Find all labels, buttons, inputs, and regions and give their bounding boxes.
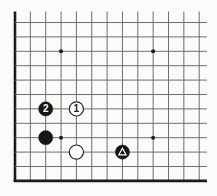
black-stone <box>39 131 53 145</box>
star-point <box>151 49 155 53</box>
stone-move-number-label: 1 <box>74 103 80 114</box>
stone-move-number-label: 2 <box>43 103 49 114</box>
star-point <box>59 49 63 53</box>
star-point <box>151 136 155 140</box>
go-board: 21 <box>0 0 217 196</box>
go-diagram-screenshot: 21 <box>0 0 217 196</box>
star-point <box>59 136 63 140</box>
white-stone <box>69 145 83 159</box>
